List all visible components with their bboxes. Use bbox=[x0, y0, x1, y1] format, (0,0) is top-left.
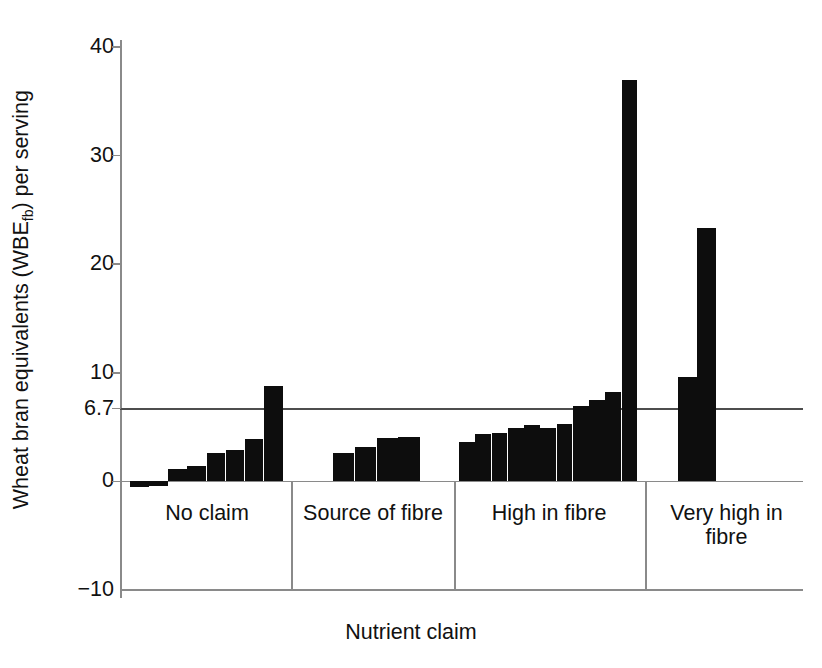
bar bbox=[622, 80, 638, 482]
y-tick-mark bbox=[112, 372, 121, 374]
bar bbox=[678, 377, 697, 481]
y-axis-title: Wheat bran equivalents (WBEfb) per servi… bbox=[0, 0, 46, 600]
bar bbox=[589, 400, 605, 481]
bar bbox=[557, 424, 573, 482]
bar bbox=[264, 386, 283, 482]
category-separator bbox=[291, 482, 293, 590]
category-label: No claim bbox=[128, 501, 286, 525]
y-axis-title-main: Wheat bran equivalents (WBE bbox=[9, 222, 33, 510]
bar bbox=[508, 428, 524, 481]
y-tick-mark bbox=[112, 408, 121, 410]
x-axis-line bbox=[120, 589, 803, 591]
bar bbox=[130, 481, 149, 486]
bar bbox=[333, 453, 354, 481]
category-separator bbox=[645, 482, 647, 590]
chart-figure: Wheat bran equivalents (WBEfb) per servi… bbox=[0, 0, 822, 668]
x-axis-title: Nutrient claim bbox=[0, 620, 822, 645]
y-axis-title-subscript: fb bbox=[21, 210, 37, 222]
bar bbox=[540, 428, 556, 481]
bar bbox=[226, 450, 245, 481]
y-tick-label: 10 bbox=[42, 362, 114, 384]
y-tick-label: −10 bbox=[42, 579, 114, 601]
bar bbox=[492, 433, 508, 482]
y-axis-line bbox=[120, 40, 122, 598]
y-axis-tick-labels: 403020106.70−10 bbox=[42, 0, 114, 668]
bar bbox=[573, 406, 589, 481]
y-tick-label: 40 bbox=[42, 36, 114, 58]
y-tick-mark bbox=[112, 481, 121, 483]
y-tick-label: 0 bbox=[42, 470, 114, 492]
bar bbox=[245, 439, 264, 481]
bar bbox=[187, 466, 206, 481]
category-label: High in fibre bbox=[458, 501, 640, 525]
bar bbox=[524, 425, 540, 481]
category-label: Source of fibre bbox=[296, 501, 450, 525]
y-axis-title-end: ) per serving bbox=[9, 90, 33, 210]
y-tick-mark bbox=[112, 155, 121, 157]
bar bbox=[149, 481, 168, 485]
bar bbox=[475, 434, 491, 482]
bar bbox=[605, 392, 621, 481]
y-tick-label: 20 bbox=[42, 253, 114, 275]
bar bbox=[207, 453, 226, 481]
category-label: Very high in fibre bbox=[650, 501, 803, 549]
y-tick-label: 6.7 bbox=[42, 398, 114, 420]
bar bbox=[168, 469, 187, 481]
y-tick-label: 30 bbox=[42, 145, 114, 167]
category-separator bbox=[454, 482, 456, 590]
y-tick-mark bbox=[112, 46, 121, 48]
y-tick-mark bbox=[112, 263, 121, 265]
bar bbox=[459, 442, 475, 481]
bar bbox=[398, 437, 419, 482]
bar bbox=[355, 447, 376, 482]
bar bbox=[697, 228, 716, 481]
bar bbox=[377, 438, 398, 481]
